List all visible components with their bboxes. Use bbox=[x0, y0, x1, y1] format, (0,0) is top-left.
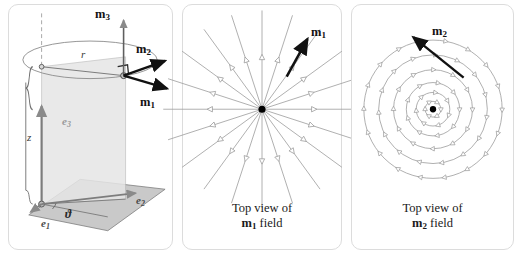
m3-label: m3 bbox=[95, 7, 110, 22]
panel2-caption-line1: Top view of bbox=[183, 201, 341, 216]
z-label: z bbox=[27, 131, 31, 143]
panel-m1-field: m1 Top view of m1 field bbox=[182, 4, 342, 250]
panel2-caption: Top view of m1 field bbox=[183, 201, 341, 234]
m1-field-arrow-label: m1 bbox=[311, 25, 326, 40]
panel-m2-field: m2 Top view of m2 field bbox=[351, 4, 514, 250]
panel3-caption-line2: m2 field bbox=[352, 216, 513, 234]
m2-label: m2 bbox=[136, 42, 151, 57]
m1-arrow bbox=[124, 76, 167, 89]
m1-label: m1 bbox=[140, 95, 155, 110]
panel2-caption-line2: m1 field bbox=[183, 216, 341, 234]
e2-label: e2 bbox=[136, 194, 145, 208]
center-dot bbox=[258, 106, 265, 113]
theta-label: ϑ bbox=[65, 207, 71, 222]
m2-arrow bbox=[124, 61, 165, 76]
panel3-caption: Top view of m2 field bbox=[352, 201, 513, 234]
z-brace-upper bbox=[26, 67, 33, 110]
panel-cylindrical-coordinates: m3 m2 m1 r z e3 e1 e2 ϑ bbox=[8, 4, 173, 250]
e3-label: e3 bbox=[62, 115, 71, 129]
figure-root: m3 m2 m1 r z e3 e1 e2 ϑ m1 Top view bbox=[0, 0, 522, 257]
z-brace-lower bbox=[26, 190, 33, 204]
center-dot bbox=[430, 106, 436, 112]
e1-label: e1 bbox=[41, 217, 50, 231]
m2-field-arrow-label: m2 bbox=[432, 24, 447, 39]
axis-point bbox=[39, 64, 44, 69]
r-label: r bbox=[81, 48, 85, 60]
m1-field-arrow bbox=[287, 39, 308, 77]
panel3-caption-line1: Top view of bbox=[352, 201, 513, 216]
